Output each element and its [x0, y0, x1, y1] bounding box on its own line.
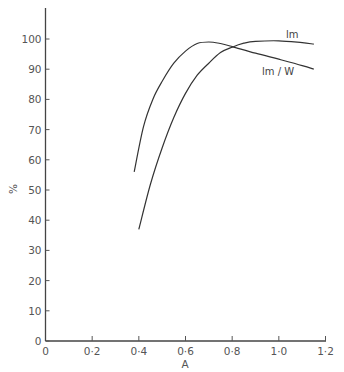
y-tick-label: 40	[28, 214, 41, 226]
x-tick-label: 0·6	[177, 345, 194, 357]
x-tick-label: 1·2	[317, 345, 334, 357]
y-tick-label: 90	[28, 63, 41, 75]
x-tick-label: 0·2	[84, 345, 101, 357]
series-label-lm-per-w: lm / W	[262, 66, 294, 77]
x-tick-label: 1·0	[270, 345, 287, 357]
y-tick-label: 10	[28, 305, 41, 317]
y-tick-label: 50	[28, 184, 41, 196]
x-tick-label: 0·8	[224, 345, 241, 357]
y-tick-label: 80	[28, 93, 41, 105]
series-label-lm: lm	[286, 29, 299, 40]
y-tick-label: 60	[28, 154, 41, 166]
y-tick-label: 0	[35, 335, 42, 347]
x-tick-label: 0	[42, 345, 49, 357]
y-tick-label: 100	[21, 33, 41, 45]
y-tick-label: 20	[28, 275, 41, 287]
axes	[46, 8, 327, 341]
x-tick-label: 0·4	[130, 345, 147, 357]
x-axis-label: A	[181, 358, 189, 370]
line-chart: 0102030405060708090100 00·20·40·60·81·01…	[0, 0, 344, 372]
y-tick-label: 70	[28, 124, 41, 136]
y-axis-label: %	[7, 184, 19, 194]
y-tick-label: 30	[28, 244, 41, 256]
x-ticks: 00·20·40·60·81·01·2	[42, 336, 334, 357]
